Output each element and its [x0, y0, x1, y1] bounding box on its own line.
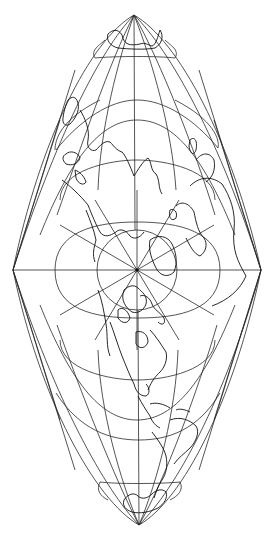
lower-parallels — [40, 305, 235, 500]
madagascar — [189, 138, 197, 153]
central-america — [138, 396, 160, 428]
kamchatka — [86, 210, 96, 262]
world-map — [0, 0, 274, 540]
north-america-east — [148, 330, 167, 390]
scandinavia — [176, 203, 206, 256]
asia-islands — [63, 152, 80, 165]
upper-parallels — [40, 40, 235, 235]
north-america-west — [110, 322, 134, 384]
florida-gulf — [134, 384, 149, 396]
alaska — [98, 290, 110, 356]
arabia — [196, 154, 215, 182]
antarctica-top — [107, 30, 162, 49]
siberia — [62, 180, 144, 238]
arctic-islands-3 — [118, 308, 130, 322]
caribbean — [150, 403, 190, 412]
africa — [190, 178, 246, 306]
pole-center-point — [135, 268, 139, 272]
